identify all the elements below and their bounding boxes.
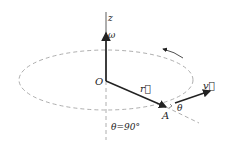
rotation-arrow [163, 49, 183, 58]
right-angle-mark [169, 104, 172, 108]
angle-note-label: θ=90° [111, 123, 140, 132]
origin-label: O [95, 77, 103, 87]
r-vector-label: r⃗ [140, 84, 151, 94]
r-vector-arrow [106, 81, 166, 107]
omega-label: ω [108, 31, 115, 40]
v-vector-label: v⃗ [203, 81, 215, 91]
theta-label: θ [177, 104, 182, 113]
point-a-label: A [162, 111, 169, 121]
v-vector-arrow [175, 91, 210, 103]
r-extension-dashed [166, 107, 199, 123]
rotation-diagram: z ω O r⃗ A θ v⃗ θ=90° [0, 0, 230, 148]
z-axis-label: z [108, 14, 113, 23]
